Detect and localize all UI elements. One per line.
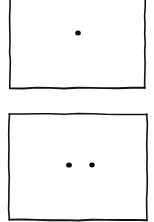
- bottom-panel-two-dots: [9, 114, 148, 221]
- frame-left-edge: [9, 114, 10, 220]
- diagram-canvas: [0, 0, 154, 222]
- top-panel-one-dot: [10, 0, 146, 89]
- dot-1: [66, 162, 72, 167]
- frame-top-edge: [9, 114, 147, 115]
- frame-right-edge: [147, 114, 148, 220]
- frame-left-edge: [10, 0, 11, 88]
- dot-1: [75, 30, 81, 35]
- frame-right-edge: [145, 0, 146, 88]
- frame-bottom-edge: [9, 220, 147, 221]
- dot-2: [89, 163, 94, 168]
- frame-bottom-edge: [10, 88, 145, 89]
